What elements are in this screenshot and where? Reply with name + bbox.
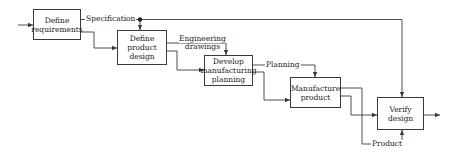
requirements-to-design — [81, 32, 117, 48]
junction-dot — [138, 17, 142, 21]
node-verify-design: Verifydesign — [377, 97, 424, 130]
label-product: Product — [371, 140, 403, 148]
node-define-product-design: Define productdesign — [117, 30, 167, 65]
design-to-planning — [167, 51, 204, 70]
label-planning: Planning — [265, 61, 301, 69]
node-develop-manufacturing-planning: Developmanufacturingplanning — [204, 55, 253, 86]
label-specification: Specification — [85, 15, 136, 23]
node-manufacture-product: Manufactureproduct — [290, 77, 341, 108]
planning-to-manufacture — [253, 72, 290, 100]
manufacture-to-verify — [341, 96, 377, 115]
label-engineering-drawings: Engineeringdrawings — [178, 35, 227, 51]
node-define-requirements: Definerequirements — [33, 9, 81, 40]
